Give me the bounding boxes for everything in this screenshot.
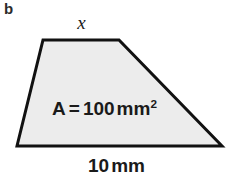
geometry-figure: b x A=100mm2 10mm (0, 0, 229, 192)
area-unit: mm (117, 98, 151, 119)
area-label: A=100mm2 (0, 99, 219, 118)
trapezoid-shape (17, 40, 222, 146)
top-side-label: x (0, 13, 196, 32)
bottom-side-unit: mm (111, 155, 145, 176)
bottom-side-label: 10mm (2, 156, 229, 175)
top-side-label-text: x (77, 12, 85, 33)
area-equals-sign: = (69, 98, 80, 119)
area-unit-exponent: 2 (150, 97, 157, 110)
bottom-side-value: 10 (88, 155, 109, 176)
area-value: 100 (83, 98, 115, 119)
area-symbol: A (52, 98, 66, 119)
